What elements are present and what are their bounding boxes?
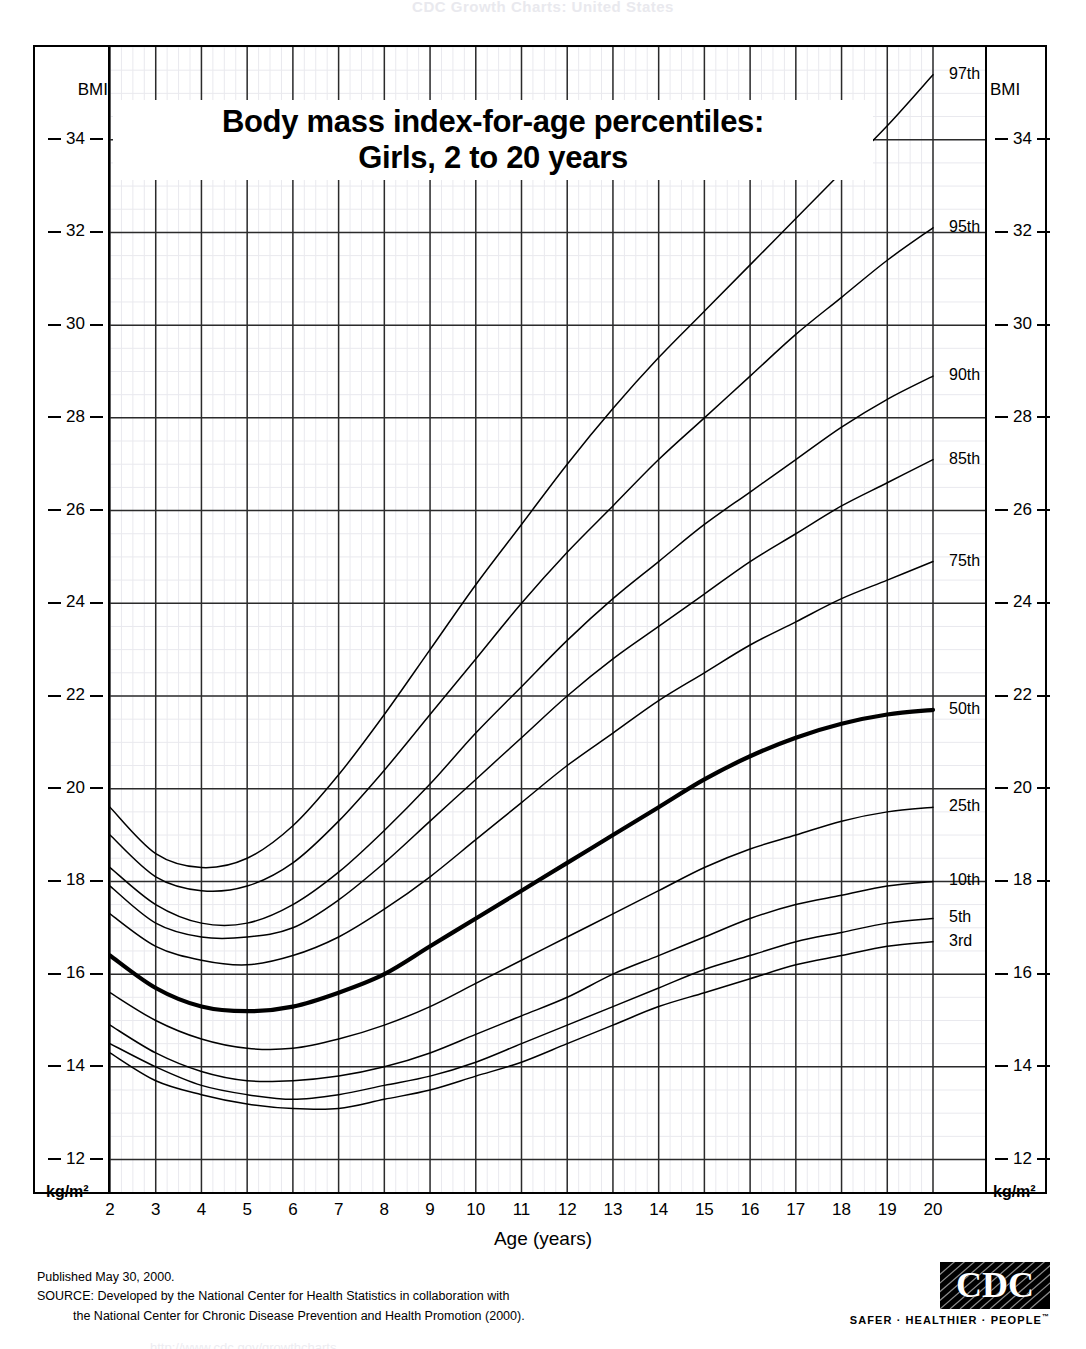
y-tick-right-30: 30 xyxy=(990,314,1054,334)
x-tick-12: 12 xyxy=(547,1200,587,1220)
y-tick-left-32: 32 xyxy=(38,221,108,241)
y-tick-right-26: 26 xyxy=(990,500,1054,520)
x-tick-6: 6 xyxy=(273,1200,313,1220)
chart-title-line1: Body mass index-for-age percentiles: xyxy=(113,104,873,140)
x-tick-2: 2 xyxy=(90,1200,130,1220)
x-axis-title: Age (years) xyxy=(0,1228,1086,1250)
y-tick-right-24: 24 xyxy=(990,592,1054,612)
x-tick-15: 15 xyxy=(684,1200,724,1220)
curve-label-95th: 95th xyxy=(949,218,980,236)
svg-text:CDC: CDC xyxy=(956,1265,1034,1305)
y-tick-right-28: 28 xyxy=(990,407,1054,427)
cdc-logo-mark: CDC xyxy=(940,1262,1050,1309)
x-tick-13: 13 xyxy=(593,1200,633,1220)
y-tick-right-22: 22 xyxy=(990,685,1054,705)
y-tick-left-26: 26 xyxy=(38,500,108,520)
curve-label-5th: 5th xyxy=(949,908,971,926)
bmi-caption-left: BMI xyxy=(38,80,108,100)
y-tick-right-18: 18 xyxy=(990,870,1054,890)
plot-area xyxy=(110,47,985,1192)
footer-source-block: Published May 30, 2000. SOURCE: Develope… xyxy=(37,1268,525,1326)
y-tick-left-24: 24 xyxy=(38,592,108,612)
unit-label-right: kg/m² xyxy=(993,1183,1036,1201)
x-tick-11: 11 xyxy=(502,1200,542,1220)
curve-label-97th: 97th xyxy=(949,65,980,83)
percentile-curves-svg xyxy=(110,47,985,1192)
y-tick-left-28: 28 xyxy=(38,407,108,427)
chart-title: Body mass index-for-age percentiles: Gir… xyxy=(113,100,873,180)
source-line-1: SOURCE: Developed by the National Center… xyxy=(37,1287,525,1306)
x-tick-10: 10 xyxy=(456,1200,496,1220)
x-tick-14: 14 xyxy=(639,1200,679,1220)
cut-header-text: CDC Growth Charts: United States xyxy=(0,0,1086,14)
x-tick-3: 3 xyxy=(136,1200,176,1220)
curve-label-85th: 85th xyxy=(949,450,980,468)
y-tick-right-14: 14 xyxy=(990,1056,1054,1076)
y-tick-left-34: 34 xyxy=(38,129,108,149)
y-tick-left-18: 18 xyxy=(38,870,108,890)
x-tick-8: 8 xyxy=(364,1200,404,1220)
y-tick-right-34: 34 xyxy=(990,129,1054,149)
y-tick-right-12: 12 xyxy=(990,1149,1054,1169)
curve-label-50th: 50th xyxy=(949,700,980,718)
y-tick-left-14: 14 xyxy=(38,1056,108,1076)
published-line: Published May 30, 2000. xyxy=(37,1268,525,1287)
curve-label-90th: 90th xyxy=(949,366,980,384)
y-tick-left-16: 16 xyxy=(38,963,108,983)
y-tick-right-20: 20 xyxy=(990,778,1054,798)
growth-chart-page: CDC Growth Charts: United States 3434323… xyxy=(0,0,1086,1349)
cdc-logo: CDC SAFER · HEALTHIER · PEOPLE™ xyxy=(830,1262,1050,1326)
curve-label-75th: 75th xyxy=(949,552,980,570)
y-tick-left-12: 12 xyxy=(38,1149,108,1169)
x-tick-20: 20 xyxy=(913,1200,953,1220)
x-tick-9: 9 xyxy=(410,1200,450,1220)
left-label-gutter xyxy=(33,45,110,1194)
curve-label-10th: 10th xyxy=(949,871,980,889)
y-tick-right-16: 16 xyxy=(990,963,1054,983)
source-line-2: the National Center for Chronic Disease … xyxy=(37,1307,525,1326)
x-tick-7: 7 xyxy=(319,1200,359,1220)
y-tick-left-30: 30 xyxy=(38,314,108,334)
cut-footer-text: http://www.cdc.gov/growthcharts xyxy=(150,1340,650,1349)
curve-label-25th: 25th xyxy=(949,797,980,815)
cdc-tagline: SAFER · HEALTHIER · PEOPLE™ xyxy=(830,1313,1050,1326)
curve-label-3rd: 3rd xyxy=(949,932,972,950)
x-tick-4: 4 xyxy=(181,1200,221,1220)
right-label-gutter xyxy=(985,45,1047,1194)
chart-title-line2: Girls, 2 to 20 years xyxy=(113,140,873,176)
bmi-caption-right: BMI xyxy=(990,80,1054,100)
y-tick-right-32: 32 xyxy=(990,221,1054,241)
y-tick-left-22: 22 xyxy=(38,685,108,705)
x-tick-18: 18 xyxy=(822,1200,862,1220)
y-tick-left-20: 20 xyxy=(38,778,108,798)
x-tick-19: 19 xyxy=(867,1200,907,1220)
x-tick-5: 5 xyxy=(227,1200,267,1220)
x-tick-16: 16 xyxy=(730,1200,770,1220)
unit-label-left: kg/m² xyxy=(46,1183,89,1201)
x-tick-17: 17 xyxy=(776,1200,816,1220)
